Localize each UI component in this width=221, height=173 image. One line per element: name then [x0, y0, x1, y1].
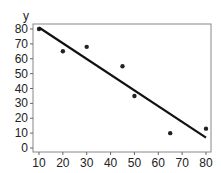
- y-tick-label: 80: [15, 22, 29, 36]
- data-point: [85, 45, 89, 49]
- y-tick-label: 40: [15, 82, 29, 96]
- y-tick-label: 30: [15, 96, 29, 110]
- data-point: [120, 64, 124, 68]
- plot-frame: [33, 24, 211, 152]
- scatter-chart: 010203040506070801020304050607080 y: [0, 0, 221, 173]
- x-tick-label: 40: [104, 156, 118, 170]
- data-point: [168, 131, 172, 135]
- data-point: [61, 49, 65, 53]
- x-tick-label: 80: [199, 156, 213, 170]
- x-tick-label: 10: [32, 156, 46, 170]
- y-tick-label: 20: [15, 111, 29, 125]
- y-tick-label: 10: [15, 126, 29, 140]
- axes: 010203040506070801020304050607080: [15, 22, 213, 170]
- x-tick-label: 50: [128, 156, 142, 170]
- y-axis-title: y: [23, 9, 29, 23]
- y-tick-label: 60: [15, 52, 29, 66]
- y-tick-label: 50: [15, 67, 29, 81]
- x-tick-label: 30: [80, 156, 94, 170]
- y-tick-label: 0: [21, 141, 28, 155]
- x-tick-label: 20: [56, 156, 70, 170]
- x-tick-label: 70: [175, 156, 189, 170]
- data-point: [204, 126, 208, 130]
- plot-marks: [37, 27, 208, 138]
- regression-line: [39, 28, 206, 138]
- data-point: [132, 94, 136, 98]
- x-tick-label: 60: [152, 156, 166, 170]
- y-tick-label: 70: [15, 37, 29, 51]
